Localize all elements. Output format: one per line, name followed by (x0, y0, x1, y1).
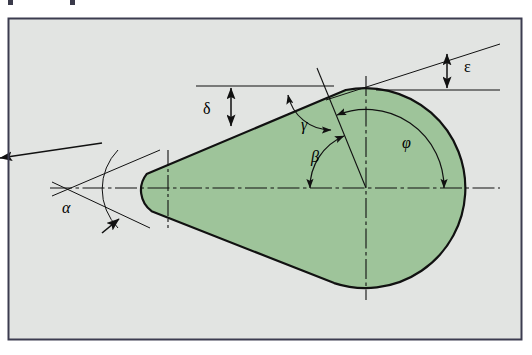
angle-label-beta: β (310, 148, 319, 166)
angle-label-phi: φ (402, 134, 411, 152)
angle-label-alpha: α (62, 199, 71, 216)
cam-profile-diagram: α β γ δ ε φ (0, 0, 532, 355)
angle-label-gamma: γ (301, 116, 308, 134)
dimension-label-epsilon: ε (464, 58, 471, 75)
figure-canvas: α β γ δ ε φ (0, 0, 532, 355)
dimension-label-delta: δ (203, 100, 211, 117)
